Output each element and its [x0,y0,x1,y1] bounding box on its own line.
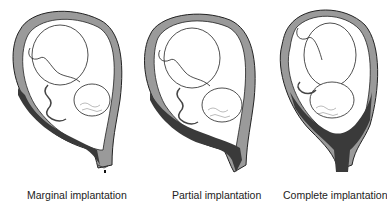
uterus-partial-illustration [130,0,260,180]
uterus-complete-illustration [260,0,386,180]
panel-marginal [0,0,130,180]
uterus-marginal-illustration [0,0,130,180]
panel-complete [260,0,386,180]
caption-marginal: Marginal implantation [27,189,127,201]
panel-partial [130,0,260,180]
caption-complete: Complete implantation [283,189,387,201]
caption-partial: Partial implantation [172,189,261,201]
